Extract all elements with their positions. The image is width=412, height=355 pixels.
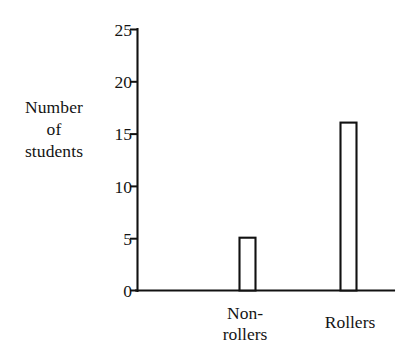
bar-rollers	[341, 123, 357, 291]
bar-non-rollers	[240, 238, 256, 291]
bar-chart: Number of students 25 20 15 10 5 0 Non- …	[0, 0, 412, 355]
plot-area	[0, 0, 412, 355]
